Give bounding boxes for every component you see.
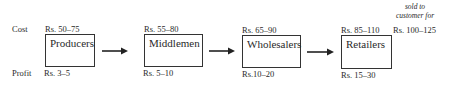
- middlemen-profit: Rs. 5–10: [143, 68, 173, 78]
- producers-cost: Rs. 50–75: [45, 24, 79, 34]
- wholesalers-box: Wholesalers: [242, 35, 301, 68]
- producers-profit: Rs. 3–5: [44, 68, 70, 78]
- sold-to-line2: customer for: [393, 11, 437, 20]
- wholesalers-profit: Rs.10–20: [242, 69, 274, 79]
- sold-to-note: sold to customer for: [393, 2, 437, 20]
- wholesalers-label: Wholesalers: [247, 38, 301, 51]
- middlemen-label: Middlemen: [149, 37, 200, 50]
- producers-label: Producers: [50, 37, 94, 50]
- middlemen-cost: Rs. 55–80: [144, 24, 178, 34]
- sold-to-line1: sold to: [393, 2, 437, 11]
- arrow-right-icon: [102, 47, 128, 55]
- retailers-profit: Rs. 15–30: [341, 70, 375, 80]
- middlemen-box: Middlemen: [144, 34, 203, 67]
- retailers-label: Retailers: [346, 38, 385, 51]
- arrow-right-icon: [209, 47, 235, 55]
- customer-price: Rs. 100–125: [393, 25, 436, 35]
- cost-row-label: Cost: [12, 24, 28, 34]
- wholesalers-cost: Rs. 65–90: [242, 25, 276, 35]
- retailers-cost: Rs. 85–110: [341, 25, 379, 35]
- retailers-box: Retailers: [341, 35, 392, 69]
- producers-box: Producers: [45, 34, 95, 67]
- arrow-right-icon: [307, 48, 334, 56]
- profit-row-label: Profit: [12, 68, 31, 78]
